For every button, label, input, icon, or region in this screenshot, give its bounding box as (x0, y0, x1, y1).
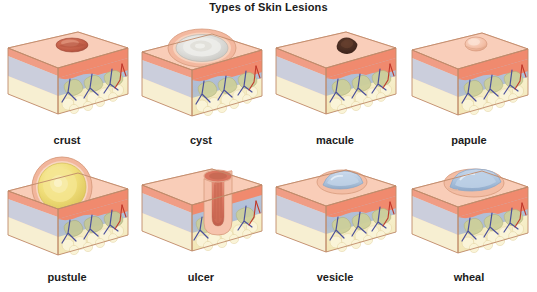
panel-pustule: pustule (0, 155, 134, 283)
panel-label-cyst: cyst (134, 134, 268, 146)
skin-block-ulcer (134, 155, 268, 265)
skin-block-pustule (0, 155, 134, 265)
skin-block-wheal (402, 155, 536, 265)
panel-label-pustule: pustule (0, 271, 134, 283)
skin-block-papule (402, 18, 536, 128)
panel-label-papule: papule (402, 134, 536, 146)
panel-label-macule: macule (268, 134, 402, 146)
panel-label-vesicle: vesicle (268, 271, 402, 283)
panel-label-crust: crust (0, 134, 134, 146)
panel-papule: papule (402, 18, 536, 146)
panel-macule: macule (268, 18, 402, 146)
panel-label-wheal: wheal (402, 271, 536, 283)
panel-wheal: wheal (402, 155, 536, 283)
skin-block-cyst (134, 18, 268, 128)
panel-crust: crust (0, 18, 134, 146)
panel-cyst: cyst (134, 18, 268, 146)
figure-title: Types of Skin Lesions (0, 1, 537, 13)
skin-block-vesicle (268, 155, 402, 265)
skin-lesions-figure: Types of Skin Lesions (0, 0, 537, 292)
panel-label-ulcer: ulcer (134, 271, 268, 283)
skin-block-macule (268, 18, 402, 128)
skin-block-crust (0, 18, 134, 128)
panel-ulcer: ulcer (134, 155, 268, 283)
panel-vesicle: vesicle (268, 155, 402, 283)
